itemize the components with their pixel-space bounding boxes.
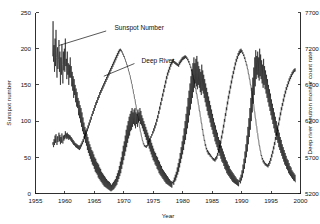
bottom-axis-title: Year (162, 212, 175, 219)
bottom-tick-label: 1965 (88, 197, 102, 204)
bottom-tick-label: 1955 (29, 197, 43, 204)
left-tick-label: 0 (28, 190, 32, 197)
bottom-tick-label: 1995 (264, 197, 278, 204)
sunspot-deep-river-chart: 050100150200250 520057006200670072007700… (0, 0, 320, 224)
left-axis-title: Sunspot number (5, 80, 12, 125)
right-axis-title: Deep river neutron monitor count rate (306, 51, 313, 154)
bottom-tick-label: 1990 (235, 197, 249, 204)
left-tick-label: 250 (21, 9, 32, 16)
left-tick-label: 150 (21, 81, 32, 88)
left-tick-label: 50 (24, 154, 31, 161)
left-tick-label: 100 (21, 117, 32, 124)
chart-canvas: 050100150200250 520057006200670072007700… (0, 0, 320, 224)
annotation-deep-river: Deep River (142, 57, 176, 65)
bottom-tick-label: 1970 (117, 197, 131, 204)
bottom-tick-label: 2000 (294, 197, 308, 204)
bottom-tick-label: 1980 (176, 197, 190, 204)
right-tick-label: 7700 (305, 9, 319, 16)
annotation-sunspot-number: Sunspot Number (114, 24, 164, 32)
right-tick-label: 7200 (305, 45, 319, 52)
bottom-tick-label: 1975 (146, 197, 160, 204)
left-tick-label: 200 (21, 45, 32, 52)
right-tick-label: 5200 (305, 190, 319, 197)
bottom-tick-label: 1985 (205, 197, 219, 204)
bottom-tick-label: 1960 (58, 197, 72, 204)
